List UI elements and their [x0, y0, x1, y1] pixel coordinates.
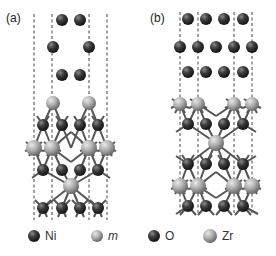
dark-atom — [210, 41, 222, 53]
dark-atom — [237, 118, 249, 130]
light-atom — [173, 97, 187, 111]
light-atom — [82, 96, 96, 110]
light-atom — [63, 178, 79, 194]
panel-a-label: (a) — [6, 11, 21, 25]
atoms — [26, 13, 260, 214]
light-atom — [208, 135, 224, 151]
light-atom — [227, 97, 241, 111]
dark-atom — [56, 164, 68, 176]
dark-atom — [92, 202, 104, 214]
dark-atom — [182, 13, 194, 25]
legend-item-ni: Ni — [28, 229, 56, 243]
dark-atom — [37, 202, 49, 214]
dark-atom — [37, 164, 49, 176]
legend-item-o: O — [148, 229, 174, 243]
light-atom — [99, 140, 115, 156]
legend-label-ni: Ni — [45, 229, 56, 243]
dark-atom — [200, 158, 212, 170]
dark-atom — [56, 14, 68, 26]
dark-atom — [182, 118, 194, 130]
dark-atom — [182, 200, 194, 212]
dark-atom — [218, 13, 230, 25]
light-atom — [26, 140, 42, 156]
light-atom — [190, 178, 206, 194]
light-atom — [44, 140, 60, 156]
light-atom — [191, 97, 205, 111]
dark-atom — [74, 69, 86, 81]
dark-atom — [56, 69, 68, 81]
light-atom — [46, 96, 60, 110]
legend-item-m: m — [91, 229, 118, 243]
dark-atom — [246, 41, 258, 53]
panel-b-label: (b) — [150, 11, 165, 25]
light-atom — [81, 140, 97, 156]
dark-atom — [200, 66, 212, 78]
dark-atom — [74, 119, 86, 131]
dark-atom — [56, 202, 68, 214]
dark-atom — [228, 41, 240, 53]
bonds — [25, 99, 261, 217]
ni-atom-icon — [28, 230, 40, 242]
crystal-structure-figure: (a) (b) Ni m O Zr — [0, 0, 276, 256]
legend-label-o: O — [165, 229, 174, 243]
dark-atom — [237, 158, 249, 170]
dark-atom — [218, 118, 230, 130]
dark-atom — [237, 13, 249, 25]
dark-atom — [74, 164, 86, 176]
dark-atom — [182, 66, 194, 78]
zr-atom-icon — [203, 229, 217, 243]
dark-atom — [174, 41, 186, 53]
dark-atom — [37, 119, 49, 131]
dark-atom — [47, 41, 59, 53]
legend-label-zr: Zr — [222, 229, 233, 243]
dark-atom — [74, 14, 86, 26]
dark-atom — [200, 200, 212, 212]
light-atom — [244, 178, 260, 194]
dark-atom — [237, 200, 249, 212]
dark-atom — [218, 200, 230, 212]
dark-atom — [200, 13, 212, 25]
o-atom-icon — [148, 230, 160, 242]
dark-atom — [83, 41, 95, 53]
dark-atom — [92, 164, 104, 176]
dark-atom — [192, 41, 204, 53]
dark-atom — [218, 66, 230, 78]
light-atom — [245, 97, 259, 111]
light-atom — [172, 178, 188, 194]
dark-atom — [237, 66, 249, 78]
m-atom-icon — [91, 230, 103, 242]
dark-atom — [182, 158, 194, 170]
dark-atom — [200, 118, 212, 130]
dark-atom — [218, 158, 230, 170]
light-atom — [226, 178, 242, 194]
dark-atom — [56, 119, 68, 131]
legend-item-zr: Zr — [203, 229, 233, 243]
legend-label-m: m — [108, 229, 118, 243]
legend: Ni m O Zr — [28, 229, 233, 243]
dark-atom — [92, 119, 104, 131]
dark-atom — [74, 202, 86, 214]
